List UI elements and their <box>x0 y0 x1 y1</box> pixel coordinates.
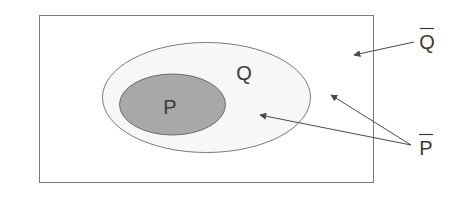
set-q-label: Q <box>236 62 252 84</box>
p-complement-label: P <box>419 137 432 159</box>
set-p-label: P <box>163 96 176 118</box>
venn-diagram: P Q Q P <box>0 0 458 199</box>
q-complement-label: Q <box>419 31 435 53</box>
